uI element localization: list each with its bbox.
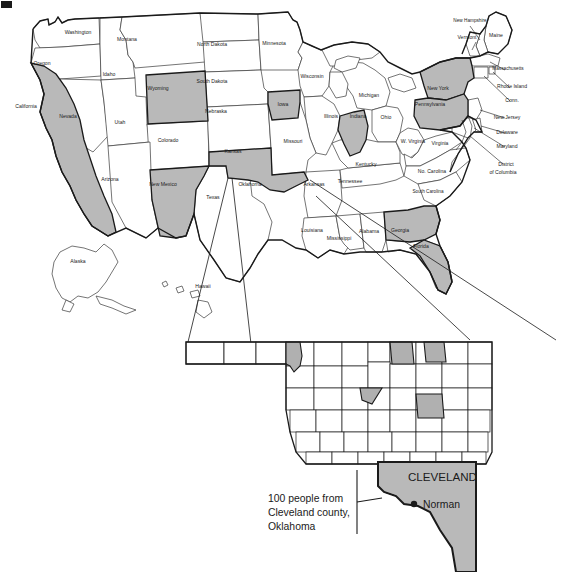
oklahoma-counties-inset (186, 342, 492, 464)
callout-line-2: Cleveland county, (268, 507, 350, 518)
state-label-missouri: Missouri (284, 138, 303, 144)
state-label-maryland: Maryland (497, 143, 518, 149)
state-label-wyoming: Wyoming (147, 85, 168, 91)
state-label-district: District (498, 161, 514, 167)
state-label-kansas: Kansas (225, 148, 242, 154)
state-label-utah: Utah (115, 119, 126, 125)
state-label-wisconsin: Wisconsin (300, 73, 323, 79)
state-connecticut (474, 67, 488, 78)
callout-line-1: 100 people from (268, 493, 343, 504)
county-texas (224, 342, 256, 364)
state-label-colorado: Colorado (158, 137, 179, 143)
state-label-oklahoma: Oklahoma (238, 181, 261, 187)
state-label-illinois: Illinois (324, 113, 339, 119)
state-label-hawaii: Hawaii (195, 283, 210, 289)
state-pennsylvania (414, 94, 468, 130)
callout-line-3: Oklahoma (268, 521, 316, 532)
norman-city-label: Norman (423, 499, 460, 510)
map-canvas: WashingtonOregonIdahoMontanaWyomingNorth… (0, 0, 563, 572)
state-label-new-jersey: New Jersey (494, 114, 521, 120)
state-alaska (52, 244, 136, 314)
state-label-ohio: Ohio (381, 114, 392, 120)
oklahoma-panhandle (186, 342, 286, 364)
state-label-delaware: Delaware (496, 129, 518, 135)
state-colorado (147, 121, 209, 170)
state-label-new-hampshire: New Hampshire (453, 18, 487, 23)
state-label-pennsylvania: Pennsylvania (415, 101, 445, 107)
state-label-indiana: Indiana (350, 113, 367, 119)
state-arizona (108, 142, 158, 238)
state-label-kentucky: Kentucky (356, 161, 377, 167)
state-label-iowa: Iowa (278, 101, 289, 107)
state-label-alabama: Alabama (359, 228, 379, 234)
state-label-north-dakota: North Dakota (197, 41, 227, 47)
state-label-florida: Florida (413, 243, 429, 249)
leader-dc (470, 136, 503, 164)
state-label-arizona: Arizona (101, 176, 118, 182)
state-label-massachusetts: Massachusetts (492, 66, 524, 71)
state-label-alaska: Alaska (70, 258, 85, 264)
county-beaver (256, 342, 286, 364)
oklahoma-county-grid (286, 342, 492, 464)
state-label-w-virginia: W. Virginia (401, 138, 425, 144)
state-nebraska (205, 70, 268, 107)
state-label-oregon: Oregon (34, 60, 51, 66)
state-label-rhode-island: Rhode Island (497, 83, 527, 89)
state-label-vermont: Vermont (458, 34, 478, 40)
state-new-york (420, 58, 474, 100)
state-label-nebraska: Nebraska (205, 108, 227, 114)
state-label-tennessee: Tennessee (338, 178, 363, 184)
state-label-louisiana: Louisiana (301, 227, 323, 233)
cleveland-county-label: CLEVELAND (408, 470, 477, 483)
state-label-texas: Texas (206, 194, 220, 200)
state-utah (101, 78, 150, 146)
state-label-michigan: Michigan (359, 92, 380, 98)
state-georgia (384, 206, 440, 242)
state-label-conn: Conn. (505, 97, 519, 103)
state-label-california: California (15, 103, 37, 109)
state-label-montana: Montana (117, 36, 137, 42)
state-label-minnesota: Minnesota (262, 40, 286, 46)
callout-leader (357, 498, 382, 502)
map-figure: WashingtonOregonIdahoMontanaWyomingNorth… (0, 0, 563, 572)
state-label-nevada: Nevada (59, 113, 77, 119)
state-label-new-mexico: New Mexico (149, 181, 177, 187)
county-shaded-3 (424, 342, 446, 362)
state-label-idaho: Idaho (103, 71, 116, 77)
us-map-group: WashingtonOregonIdahoMontanaWyomingNorth… (15, 12, 527, 318)
state-label-virginia: Virginia (432, 140, 449, 146)
state-label-of-columbia: of Columbia (489, 169, 516, 175)
state-north-dakota (200, 13, 259, 42)
state-label-new-york: New York (427, 85, 449, 91)
state-label-arkansas: Arkansas (303, 181, 325, 187)
state-label-south-carolina: South Carolina (412, 189, 443, 194)
state-label-washington: Washington (65, 29, 92, 35)
state-arkansas (304, 170, 342, 218)
state-label-maine: Maine (489, 32, 503, 38)
county-cimarron (186, 342, 224, 364)
state-label-no-carolina: No. Carolina (418, 168, 446, 174)
norman-city-dot (411, 501, 417, 507)
lake-huron-erie (388, 74, 416, 92)
county-shaded-4 (416, 394, 444, 418)
state-label-mississippi: Mississippi (327, 235, 352, 241)
state-label-georgia: Georgia (391, 227, 409, 233)
county-shaded-2 (390, 342, 414, 364)
state-label-south-dakota: South Dakota (197, 78, 228, 84)
